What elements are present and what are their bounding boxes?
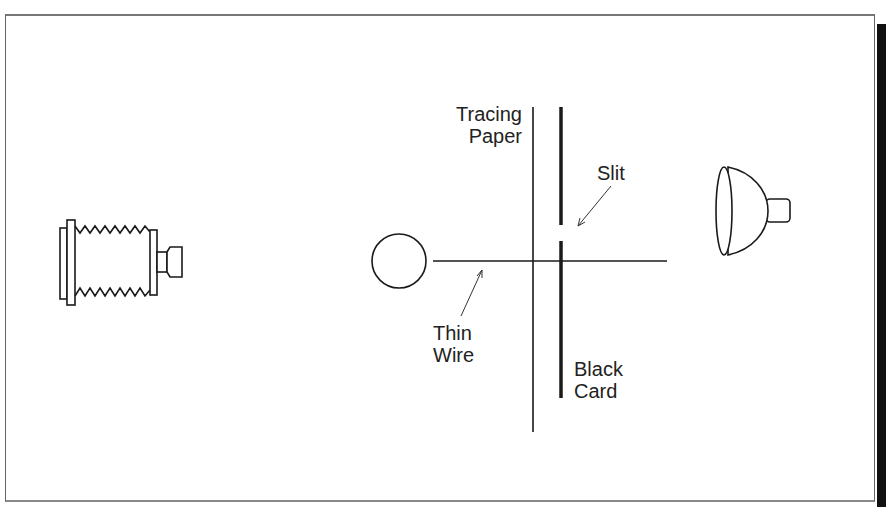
thin-wire-label-line2: Wire (433, 344, 474, 366)
tracing-paper-label: Tracing Paper (430, 103, 522, 147)
optical-setup-diagram (0, 0, 886, 507)
tracing-paper-label-line2: Paper (430, 125, 522, 147)
thin-wire-label: Thin Wire (433, 322, 474, 366)
black-card-label-line1: Black (574, 358, 623, 380)
wire-arrow-icon (461, 270, 482, 316)
bellows-camera-icon (60, 220, 182, 305)
lamp-reflector-icon (716, 167, 790, 255)
slit-arrow-icon (578, 186, 611, 226)
slit-label: Slit (597, 162, 625, 184)
black-card-label-line2: Card (574, 380, 623, 402)
tracing-paper-label-line1: Tracing (430, 103, 522, 125)
sphere-object (372, 234, 426, 288)
thin-wire-label-line1: Thin (433, 322, 474, 344)
black-card-label: Black Card (574, 358, 623, 402)
